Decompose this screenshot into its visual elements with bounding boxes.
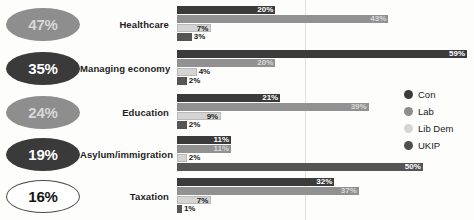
bar-group: 59%20%4%2% bbox=[177, 46, 474, 90]
bar-wrapper: 11% bbox=[177, 136, 231, 144]
legend-item-con: Con bbox=[404, 86, 474, 103]
bar-value-label: 43% bbox=[370, 15, 386, 23]
percentage-badge: 24% bbox=[6, 96, 80, 129]
bar-con: 20% bbox=[177, 6, 275, 14]
bar-row: 50% bbox=[177, 163, 423, 171]
bar-wrapper: 50% bbox=[177, 163, 423, 171]
category-label: Asylum/immigration bbox=[80, 149, 180, 160]
bar-value-label: 32% bbox=[316, 178, 332, 186]
legend-label: Lib Dem bbox=[418, 123, 453, 134]
bar-value-label: 37% bbox=[341, 187, 357, 195]
category-badge-column: 47%Healthcare35%Managing economy24%Educa… bbox=[0, 0, 176, 220]
bar-value-label: 2% bbox=[189, 154, 201, 162]
bar-lab: 39% bbox=[177, 103, 369, 111]
legend-label: UKIP bbox=[418, 140, 440, 151]
badge-value: 16% bbox=[28, 189, 57, 204]
bar-wrapper: 7% bbox=[177, 24, 211, 32]
legend-swatch-icon bbox=[404, 141, 413, 150]
bar-value-label: 9% bbox=[207, 113, 219, 121]
category-label: Managing economy bbox=[80, 63, 177, 74]
bar-row: 37% bbox=[177, 187, 359, 195]
badge-value: 47% bbox=[28, 17, 57, 32]
bar-wrapper: 32% bbox=[177, 178, 334, 186]
legend-label: Lab bbox=[418, 106, 434, 117]
bar-row: 2% bbox=[177, 121, 200, 129]
bar-ukip bbox=[177, 205, 182, 213]
percentage-badge: 47% bbox=[6, 8, 80, 41]
percentage-badge: 35% bbox=[6, 52, 80, 85]
bar-lab: 11% bbox=[177, 145, 231, 153]
bar-wrapper: 2% bbox=[177, 154, 200, 162]
bar-lib-dem bbox=[177, 68, 197, 76]
category-label: Taxation bbox=[80, 191, 176, 202]
bar-lib-dem: 9% bbox=[177, 112, 221, 120]
bar-wrapper: 59% bbox=[177, 50, 467, 58]
bar-row: 7% bbox=[177, 196, 211, 204]
bar-wrapper: 4% bbox=[177, 68, 210, 76]
legend-item-lab: Lab bbox=[404, 103, 474, 120]
bar-lib-dem: 7% bbox=[177, 24, 211, 32]
bar-row: 2% bbox=[177, 77, 200, 85]
category-row: 19%Asylum/immigration bbox=[0, 132, 176, 176]
bar-row: 59% bbox=[177, 50, 467, 58]
bar-wrapper: 3% bbox=[177, 33, 205, 41]
bar-lab: 43% bbox=[177, 15, 388, 23]
category-row: 16%Taxation bbox=[0, 174, 176, 218]
bar-lab: 20% bbox=[177, 59, 275, 67]
bar-wrapper: 1% bbox=[177, 205, 195, 213]
bar-row: 20% bbox=[177, 59, 275, 67]
bar-value-label: 4% bbox=[199, 68, 211, 76]
legend-swatch-icon bbox=[404, 124, 413, 133]
bar-ukip bbox=[177, 33, 192, 41]
bar-lib-dem bbox=[177, 154, 187, 162]
bar-row: 32% bbox=[177, 178, 334, 186]
bar-wrapper: 39% bbox=[177, 103, 369, 111]
category-label: Education bbox=[80, 107, 176, 118]
category-row: 35%Managing economy bbox=[0, 46, 176, 90]
percentage-badge: 16% bbox=[6, 180, 80, 213]
legend-item-lib-dem: Lib Dem bbox=[404, 120, 474, 137]
bar-value-label: 59% bbox=[449, 50, 465, 58]
bar-wrapper: 11% bbox=[177, 145, 231, 153]
bar-value-label: 20% bbox=[257, 6, 273, 14]
bar-wrapper: 2% bbox=[177, 121, 200, 129]
bar-wrapper: 20% bbox=[177, 59, 275, 67]
bar-row: 3% bbox=[177, 33, 205, 41]
category-row: 24%Education bbox=[0, 90, 176, 134]
legend-swatch-icon bbox=[404, 90, 413, 99]
category-label: Healthcare bbox=[80, 19, 176, 30]
bar-row: 4% bbox=[177, 68, 210, 76]
bar-row: 21% bbox=[177, 94, 280, 102]
grouped-bar-chart-figure: 47%Healthcare35%Managing economy24%Educa… bbox=[0, 0, 474, 220]
bar-lib-dem: 7% bbox=[177, 196, 211, 204]
bar-row: 39% bbox=[177, 103, 369, 111]
bar-row: 20% bbox=[177, 6, 275, 14]
bar-value-label: 7% bbox=[197, 197, 209, 205]
bar-value-label: 2% bbox=[189, 121, 201, 129]
bar-value-label: 11% bbox=[213, 136, 229, 144]
bar-value-label: 21% bbox=[262, 94, 278, 102]
bar-row: 9% bbox=[177, 112, 221, 120]
bar-value-label: 2% bbox=[189, 77, 201, 85]
chart-legend: ConLabLib DemUKIP bbox=[404, 86, 474, 154]
legend-label: Con bbox=[418, 89, 435, 100]
bar-value-label: 20% bbox=[257, 59, 273, 67]
bar-con: 11% bbox=[177, 136, 231, 144]
bar-con: 32% bbox=[177, 178, 334, 186]
bar-ukip: 50% bbox=[177, 163, 423, 171]
category-row: 47%Healthcare bbox=[0, 2, 176, 46]
bar-group: 20%43%7%3% bbox=[177, 2, 474, 46]
bar-wrapper: 20% bbox=[177, 6, 275, 14]
bar-wrapper: 21% bbox=[177, 94, 280, 102]
bar-con: 21% bbox=[177, 94, 280, 102]
bar-row: 11% bbox=[177, 145, 231, 153]
legend-item-ukip: UKIP bbox=[404, 137, 474, 154]
bar-wrapper: 7% bbox=[177, 196, 211, 204]
badge-value: 35% bbox=[28, 61, 57, 76]
bar-wrapper: 37% bbox=[177, 187, 359, 195]
bar-group: 32%37%7%1% bbox=[177, 174, 474, 218]
bar-row: 11% bbox=[177, 136, 231, 144]
badge-value: 19% bbox=[28, 147, 57, 162]
bar-row: 7% bbox=[177, 24, 211, 32]
bar-wrapper: 43% bbox=[177, 15, 388, 23]
